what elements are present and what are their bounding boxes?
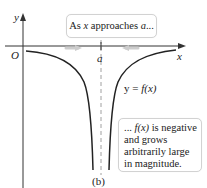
callout-behavior-line1: ... f(x) is negative <box>124 122 201 134</box>
x-axis-label: x <box>177 51 182 62</box>
y-axis-arrow-icon <box>20 13 26 21</box>
callout-approach: As x approaches a... <box>66 14 157 38</box>
curve-label-func: f(x) <box>141 82 156 94</box>
curve-label: y = f(x) <box>124 83 156 94</box>
callout-behavior-line3: arbitrarily large <box>124 146 201 158</box>
callout-right-post: is negative <box>149 122 197 133</box>
callout-top-mid: approaches <box>88 20 140 31</box>
callout-behavior-line4: in magnitude. <box>124 158 201 170</box>
callout-top-pre: As <box>69 20 83 31</box>
callout-behavior-line2: and grows <box>124 134 201 146</box>
callout-behavior: ... f(x) is negative and grows arbitrari… <box>118 118 202 172</box>
callout-top-post: ... <box>146 20 154 31</box>
y-axis-label: y <box>14 12 19 23</box>
callout-right-pre: ... <box>124 122 135 133</box>
curve-label-prefix: y = <box>124 82 141 94</box>
callout-right-func: f(x) <box>135 122 150 133</box>
curve-left-branch <box>26 51 93 170</box>
callout-approach-text: As x approaches a... <box>69 20 154 32</box>
figure-caption: (b) <box>92 176 105 187</box>
x-axis-arrow-icon <box>178 43 186 49</box>
figure-vertical-asymptote: y O a x y = f(x) As x approaches a... ..… <box>0 0 207 188</box>
asymptote-label-a: a <box>97 53 103 64</box>
origin-label: O <box>11 50 19 61</box>
